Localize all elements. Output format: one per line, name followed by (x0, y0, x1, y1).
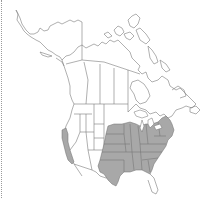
range-eastern-us (98, 110, 174, 186)
country-outlines (16, 10, 200, 118)
north-america-map (0, 0, 213, 198)
alaska-outline (16, 10, 82, 60)
hudson-bay-outline (130, 80, 150, 104)
range-california-coast (62, 128, 74, 164)
range-map (0, 0, 213, 198)
florida-outline (148, 174, 158, 194)
canada-outline (82, 40, 196, 118)
mexico-outline (74, 164, 82, 176)
